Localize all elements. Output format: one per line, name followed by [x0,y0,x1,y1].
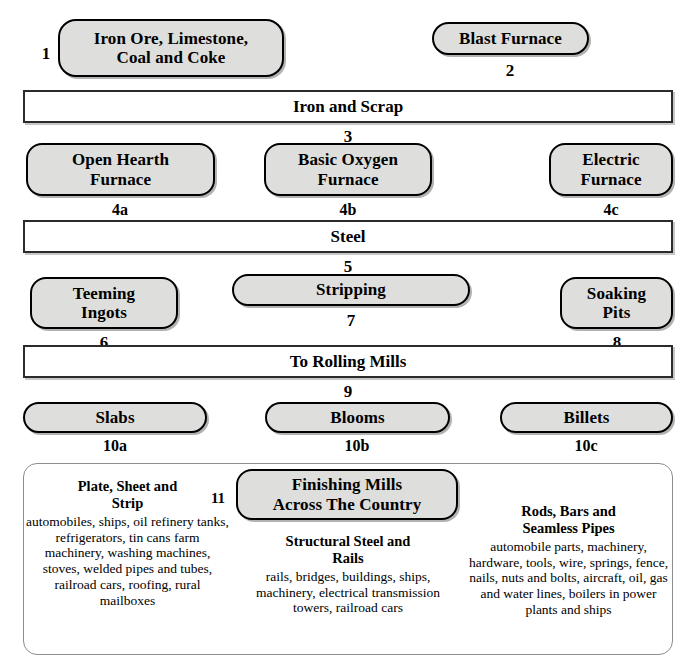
node-stripping[interactable]: Stripping [232,274,470,306]
stage-number-4a: 4a [100,202,140,218]
node-1-line1: Iron Ore, Limestone, [94,29,248,48]
stage-number-10a: 10a [95,438,135,454]
node-9-line1: To Rolling Mills [290,352,407,372]
node-blast-furnace[interactable]: Blast Furnace [432,22,589,55]
stage-number-4b: 4b [328,202,368,218]
node-4c-line1: Electric [580,150,641,169]
node-8-line1: Soaking [587,284,646,303]
node-basic-oxygen-furnace[interactable]: Basic Oxygen Furnace [264,143,432,196]
product-right-heading-line1: Rods, Bars and [468,503,669,520]
stage-number-4c: 4c [591,202,631,218]
node-10a-line1: Slabs [95,408,134,427]
stage-number-7: 7 [331,312,371,329]
node-11-line1: Finishing Mills [273,475,422,494]
node-teeming-ingots[interactable]: Teeming Ingots [30,277,178,329]
node-soaking-pits[interactable]: Soaking Pits [560,277,673,329]
stage-number-1: 1 [36,45,56,62]
node-10c-line1: Billets [563,408,609,427]
node-3-line1: Iron and Scrap [293,97,403,117]
node-4b-line1: Basic Oxygen [298,150,398,169]
product-left-heading-line1: Plate, Sheet and [26,478,229,495]
node-steel[interactable]: Steel [23,220,673,253]
node-iron-ore-limestone-coal-coke[interactable]: Iron Ore, Limestone, Coal and Coke [58,19,284,77]
node-6-line1: Teeming [73,284,135,303]
node-6-line2: Ingots [73,303,135,322]
node-1-line2: Coal and Coke [94,48,248,67]
stage-number-5: 5 [328,258,368,275]
product-column-rods-bars-seamless-pipes: Rods, Bars and Seamless Pipes automobile… [468,503,669,618]
product-column-plate-sheet-strip: Plate, Sheet and Strip automobiles, ship… [26,478,229,609]
node-4a-line1: Open Hearth [72,150,169,169]
node-iron-and-scrap[interactable]: Iron and Scrap [23,90,673,123]
node-open-hearth-furnace[interactable]: Open Hearth Furnace [26,143,215,196]
node-5-line1: Steel [331,227,366,247]
product-right-items: automobile parts, machinery, hardware, t… [468,539,669,619]
node-finishing-mills-across-the-country[interactable]: Finishing Mills Across The Country [236,469,458,520]
node-4c-line2: Furnace [580,170,641,189]
product-middle-heading-line2: Rails [245,550,451,567]
product-left-heading-line2: Strip [26,495,229,512]
node-7-line1: Stripping [316,280,386,299]
node-8-line2: Pits [587,303,646,322]
process-flow-diagram: 1 Iron Ore, Limestone, Coal and Coke Bla… [0,0,693,662]
stage-number-10c: 10c [566,438,606,454]
node-to-rolling-mills[interactable]: To Rolling Mills [23,345,673,378]
product-middle-heading-line1: Structural Steel and [245,533,451,550]
node-electric-furnace[interactable]: Electric Furnace [549,143,673,196]
node-4a-line2: Furnace [72,170,169,189]
node-2-line1: Blast Furnace [459,29,562,48]
node-11-line2: Across The Country [273,495,422,514]
node-blooms[interactable]: Blooms [265,402,450,433]
node-4b-line2: Furnace [298,170,398,189]
node-10b-line1: Blooms [330,408,384,427]
product-middle-items: rails, bridges, buildings, ships, machin… [245,569,451,617]
stage-number-10b: 10b [337,438,377,454]
product-left-items: automobiles, ships, oil refinery tanks, … [26,514,229,610]
stage-number-2: 2 [490,62,530,79]
node-billets[interactable]: Billets [500,402,673,433]
node-slabs[interactable]: Slabs [23,402,207,433]
stage-number-9: 9 [328,383,368,400]
product-right-heading-line2: Seamless Pipes [468,520,669,537]
product-column-structural-steel-rails: Structural Steel and Rails rails, bridge… [245,533,451,616]
